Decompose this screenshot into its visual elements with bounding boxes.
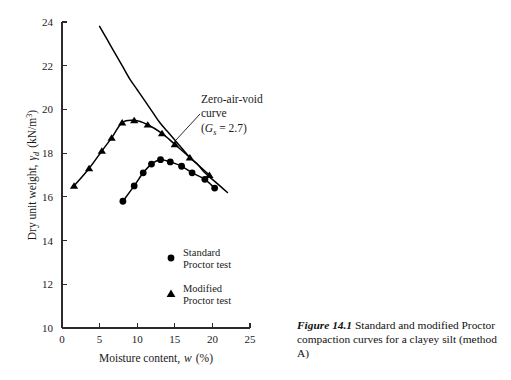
circle-marker: [167, 158, 174, 165]
y-tick-label: 22: [42, 60, 53, 72]
legend-modified-line1: Modified: [183, 283, 223, 294]
y-tick-label: 18: [42, 147, 54, 159]
y-tick-label: 16: [42, 191, 54, 203]
legend-group: Standard Proctor test Modified Proctor t…: [167, 247, 232, 306]
circle-marker: [168, 255, 175, 262]
x-tick-label: 25: [245, 333, 257, 345]
circle-marker: [120, 198, 127, 205]
x-tick-label: 10: [132, 333, 144, 345]
y-axis-title-subscript: d: [32, 151, 41, 156]
y-axis-title-close: ): [26, 110, 39, 114]
zav-annotation-line1: Zero-air-void: [201, 93, 263, 105]
zav-gs-value: = 2.7): [216, 122, 247, 135]
x-tick-group: 0510152025: [59, 323, 256, 345]
circle-marker: [201, 176, 208, 183]
x-tick-label: 5: [97, 333, 103, 345]
x-axis-title-main: Moisture content,: [99, 352, 180, 365]
x-axis-title-symbol: w: [184, 352, 192, 364]
y-axis-title: Dry unit weight,γd(kN/m3): [25, 110, 41, 241]
x-tick-label: 20: [207, 333, 219, 345]
circle-marker: [189, 169, 196, 176]
circle-marker: [211, 185, 218, 192]
y-tick-label: 14: [42, 235, 54, 247]
y-tick-label: 12: [42, 278, 53, 290]
figure-container: 0510152025 1012141618202224 Zero-air-voi…: [0, 0, 511, 380]
circle-marker: [131, 183, 138, 190]
circle-marker: [140, 169, 147, 176]
legend-modified-line2: Proctor test: [183, 295, 231, 306]
circle-marker: [157, 156, 164, 163]
circle-marker: [178, 163, 185, 170]
y-axis-title-unit: (kN/m: [26, 118, 39, 148]
modified-proctor-markers: [70, 117, 214, 189]
x-axis-title: Moisture content,w(%): [99, 352, 213, 365]
legend-standard-line1: Standard: [183, 247, 221, 258]
standard-proctor-curve: [123, 160, 215, 202]
circle-marker: [148, 161, 155, 168]
y-tick-label: 10: [42, 322, 54, 334]
y-axis-title-main: Dry unit weight,: [26, 164, 39, 240]
zav-annotation-line2: curve: [201, 107, 227, 119]
standard-proctor-markers: [120, 156, 219, 204]
annotation-group: Zero-air-void curve (Gs = 2.7): [176, 93, 263, 140]
y-tick-label: 24: [42, 16, 54, 28]
triangle-marker: [118, 119, 126, 125]
x-tick-label: 15: [169, 333, 181, 345]
zav-annotation-line3: (Gs = 2.7): [201, 122, 247, 137]
figure-number: Figure 14.1: [297, 319, 352, 331]
triangle-marker: [167, 290, 176, 298]
figure-caption: Figure 14.1 Standard and modified Procto…: [297, 318, 505, 361]
triangle-marker: [107, 134, 115, 140]
y-tick-label: 20: [42, 103, 54, 115]
x-tick-label: 0: [59, 333, 65, 345]
triangle-marker: [144, 121, 152, 127]
annotation-leader-line: [176, 114, 200, 140]
axis-title-group: Moisture content,w(%) Dry unit weight,γd…: [25, 110, 213, 365]
legend-standard-line2: Proctor test: [183, 259, 231, 270]
y-tick-group: 1012141618202224: [42, 16, 67, 334]
x-axis-title-unit: (%): [196, 352, 213, 365]
